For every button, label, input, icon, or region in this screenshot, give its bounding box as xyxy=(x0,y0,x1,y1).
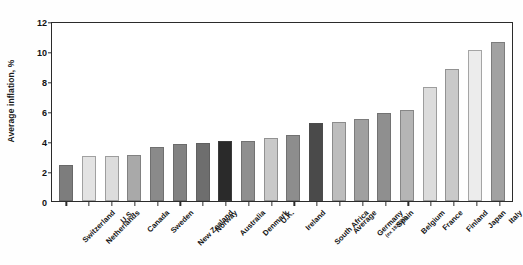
bar-slot xyxy=(486,23,509,201)
plot-area: 024681012 xyxy=(51,22,513,202)
x-tick-label: Ireland xyxy=(305,209,328,232)
bar-slot xyxy=(396,23,419,201)
x-tick-mark xyxy=(134,201,135,206)
bar xyxy=(309,123,323,201)
bar xyxy=(105,156,119,201)
x-tick-mark xyxy=(66,201,67,206)
bar xyxy=(445,69,459,201)
bar-slot xyxy=(55,23,78,201)
bar-slot xyxy=(259,23,282,201)
bar xyxy=(241,141,255,201)
bar-slot xyxy=(78,23,101,201)
x-tick-label-text: Italy xyxy=(506,208,523,225)
x-tick-label-text: Ireland xyxy=(304,208,328,232)
bar xyxy=(400,110,414,202)
x-tick-label-text: Finland xyxy=(464,208,489,233)
x-tick-mark xyxy=(339,201,340,206)
x-tick-mark xyxy=(180,201,181,206)
x-tick-mark xyxy=(408,201,409,206)
x-tick-mark xyxy=(225,201,226,206)
bar xyxy=(332,122,346,202)
x-tick-mark xyxy=(499,201,500,206)
x-tick-mark xyxy=(362,201,363,206)
x-tick-label-text: Japan xyxy=(486,208,508,230)
x-tick-label: Norway xyxy=(214,209,239,234)
x-tick-mark xyxy=(453,201,454,206)
bar xyxy=(423,87,437,201)
bar-slot xyxy=(282,23,305,201)
bar xyxy=(173,144,187,201)
x-tick-mark xyxy=(476,201,477,206)
bar xyxy=(286,135,300,201)
bar xyxy=(377,113,391,202)
bar xyxy=(59,165,73,201)
x-tick-label: Japan xyxy=(486,209,507,230)
bar xyxy=(354,119,368,202)
bar-slot xyxy=(191,23,214,201)
bar-slot xyxy=(169,23,192,201)
bar xyxy=(264,138,278,201)
bar-slot xyxy=(237,23,260,201)
bar-slot xyxy=(123,23,146,201)
bar-slot xyxy=(327,23,350,201)
x-tick-mark xyxy=(248,201,249,206)
bar-slot xyxy=(350,23,373,201)
x-tick-mark xyxy=(89,201,90,206)
bar xyxy=(82,156,96,201)
x-tick-mark xyxy=(271,201,272,206)
x-tick-mark xyxy=(385,201,386,206)
x-tick-label: Sweden xyxy=(169,209,195,235)
x-tick-label: Canada xyxy=(146,209,171,234)
y-axis-title: Average inflation, % xyxy=(2,0,20,202)
bar xyxy=(196,143,210,202)
bar-slot xyxy=(146,23,169,201)
x-tick-mark xyxy=(203,201,204,206)
bar xyxy=(468,50,482,202)
bar-slot xyxy=(418,23,441,201)
bar-slot xyxy=(441,23,464,201)
bar-slot xyxy=(214,23,237,201)
x-tick-mark xyxy=(111,201,112,206)
x-tick-mark xyxy=(317,201,318,206)
bar-slot xyxy=(373,23,396,201)
x-tick-mark xyxy=(431,201,432,206)
bar xyxy=(127,155,141,202)
x-axis-labels: SwitzerlandNetherlandsU.S.CanadaSwedenNe… xyxy=(51,207,513,265)
bar xyxy=(218,141,232,201)
x-tick-mark xyxy=(157,201,158,206)
x-tick-label-text: Sweden xyxy=(168,208,195,235)
bar xyxy=(491,42,505,201)
bar-series xyxy=(52,23,512,201)
bar-slot xyxy=(464,23,487,201)
x-tick-label-text: Canada xyxy=(145,208,171,234)
x-tick-label: Finland xyxy=(465,209,490,234)
bar-slot xyxy=(305,23,328,201)
x-tick-label: Italy xyxy=(507,209,523,225)
bar-slot xyxy=(100,23,123,201)
x-tick-mark xyxy=(294,201,295,206)
bar xyxy=(150,147,164,201)
